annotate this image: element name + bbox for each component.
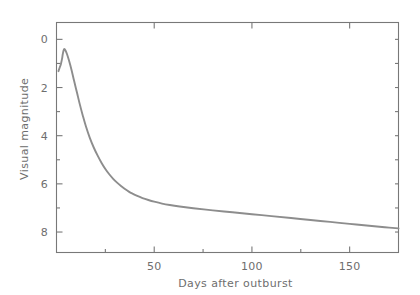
- x-axis-title: Days after outburst: [26, 277, 420, 290]
- data-series-group: [58, 49, 398, 228]
- light-curve-line: [58, 49, 398, 228]
- y-tick-label: 0: [26, 33, 48, 46]
- x-tick-label: 100: [241, 260, 263, 273]
- nova-light-curve-figure: 0246850100150 Visual magnitude Days afte…: [0, 0, 420, 295]
- chart-canvas: [0, 0, 420, 295]
- y-axis-title: Visual magnitude: [18, 77, 31, 179]
- x-tick-label: 150: [339, 260, 361, 273]
- plot-frame: [57, 23, 399, 253]
- axes-frame: [57, 23, 399, 253]
- axis-ticks: [57, 23, 399, 253]
- x-tick-label: 50: [147, 260, 162, 273]
- y-tick-label: 8: [26, 226, 48, 239]
